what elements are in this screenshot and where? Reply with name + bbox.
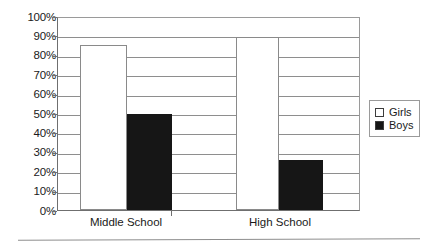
hollow-square-swatch-icon (375, 108, 384, 117)
x-axis-category-label-middle-school: Middle School (56, 216, 196, 228)
bar-boys-middle-school (127, 114, 172, 210)
y-axis-tick-label: 100% (12, 12, 56, 24)
bar-chart-figure: 100% 90% 80% 70% 60% 50% 40% 30% 20% 10%… (0, 0, 436, 251)
x-axis-category-label-high-school: High School (210, 216, 350, 228)
filled-square-swatch-icon (375, 121, 384, 130)
bar-girls-high-school (236, 37, 279, 210)
y-axis-tick-label: 50% (12, 109, 56, 121)
y-axis-tick-label: 10% (12, 186, 56, 198)
bar-boys-high-school (279, 160, 323, 210)
legend-item-label: Girls (389, 107, 412, 118)
y-axis-tick-label: 20% (12, 167, 56, 179)
legend: Girls Boys (369, 100, 420, 137)
legend-item-label: Boys (389, 120, 413, 131)
y-axis-tick-label: 80% (12, 50, 56, 62)
y-axis-tick-label: 40% (12, 128, 56, 140)
legend-item-girls: Girls (375, 106, 413, 118)
horizontal-divider (18, 238, 420, 240)
y-axis-tick-mark (52, 211, 57, 212)
bar-group-container (58, 18, 359, 210)
y-axis-tick-label: 70% (12, 70, 56, 82)
y-axis-tick-label: 0% (12, 206, 56, 218)
y-axis-tick-label: 30% (12, 147, 56, 159)
y-axis-tick-label: 60% (12, 89, 56, 101)
bar-girls-middle-school (80, 45, 127, 210)
legend-item-boys: Boys (375, 119, 413, 131)
y-axis-tick-label: 90% (12, 31, 56, 43)
y-axis: 100% 90% 80% 70% 60% 50% 40% 30% 20% 10%… (0, 0, 56, 251)
plot-area (57, 17, 360, 211)
